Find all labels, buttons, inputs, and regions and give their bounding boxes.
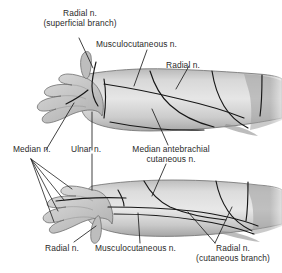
label-median-antebrachial-cutaneous: Median antebrachial cutaneous n.: [113, 144, 229, 164]
lower-limb-palmar: [31, 154, 282, 243]
label-musculocutaneous-top: Musculocutaneous n.: [96, 39, 177, 49]
anatomy-figure: Radial n. (superficial branch) Musculocu…: [0, 0, 282, 273]
label-radial-cutaneous-line1: Radial n.: [216, 243, 250, 253]
label-median-antebrachial-line1: Median antebrachial: [132, 144, 209, 154]
label-radial-bottom: Radial n.: [45, 243, 79, 253]
label-radial-superficial-branch: Radial n. (superficial branch): [24, 8, 136, 28]
upper-limb-dorsal: [37, 38, 282, 150]
upper-hand-thumb: [81, 52, 92, 79]
label-musculocutaneous-bottom: Musculocutaneous n.: [95, 243, 176, 253]
right-edge-fade: [252, 60, 282, 250]
label-median: Median n.: [13, 144, 51, 154]
label-radial-cutaneous-branch: Radial n. (cutaneous branch): [186, 243, 280, 263]
label-radial-top: Radial n.: [166, 60, 200, 70]
label-ulnar: Ulnar n.: [71, 144, 101, 154]
label-median-antebrachial-line2: cutaneous n.: [113, 154, 229, 164]
label-radial-cutaneous-line2: (cutaneous branch): [186, 253, 280, 263]
label-radial-superficial-line2: (superficial branch): [24, 18, 136, 28]
label-radial-superficial-line1: Radial n.: [63, 8, 97, 18]
